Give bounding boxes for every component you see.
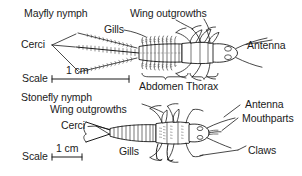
anatomy-figure: .ln { stroke:#1b1b1b; stroke-width:0.8; …: [0, 0, 302, 176]
label-mayfly-gills: Gills: [104, 24, 124, 35]
label-stonefly-claws: Claws: [248, 145, 276, 156]
label-mayfly-scale-value: 1 cm: [66, 65, 88, 76]
label-thorax: Thorax: [186, 81, 218, 92]
label-stonefly-scale: Scale: [22, 151, 48, 162]
mayfly-abdomen: [139, 44, 182, 62]
label-stonefly-mouthparts: Mouthparts: [242, 113, 294, 124]
label-mayfly-cerci: Cerci: [21, 39, 45, 50]
label-stonefly-gills: Gills: [119, 146, 139, 157]
label-mayfly-wing-outgrowths: Wing outgrowths: [130, 8, 207, 19]
stonefly-head: [189, 118, 235, 148]
label-stonefly-cerci: Cerci: [61, 120, 85, 131]
label-mayfly-scale: Scale: [22, 73, 48, 84]
label-abdomen: Abdomen: [139, 81, 183, 92]
label-stonefly-wing-outgrowths: Wing outgrowths: [50, 104, 127, 115]
stonefly-thorax: [156, 109, 192, 144]
stonefly-abdomen: [110, 125, 156, 142]
label-stonefly-scale-value: 1 cm: [56, 143, 78, 154]
label-stonefly-antenna: Antenna: [245, 99, 283, 110]
mayfly-scale-bar: [52, 76, 129, 83]
label-stonefly-nymph: Stonefly nymph: [21, 92, 92, 103]
stonefly-scale-bar: [52, 154, 82, 160]
label-mayfly-antenna: Antenna: [247, 40, 285, 51]
label-mayfly-nymph: Mayfly nymph: [24, 8, 88, 19]
stonefly-gills: [156, 144, 173, 161]
